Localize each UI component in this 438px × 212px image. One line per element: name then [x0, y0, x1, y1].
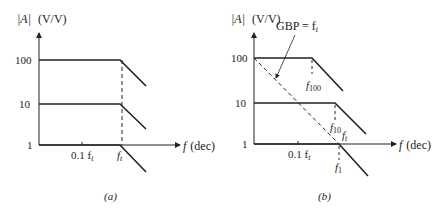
curve-gain-100-a — [39, 60, 146, 86]
x-tick-0.1ft-b: 0.1 ft — [288, 148, 311, 162]
gbp-annotation: GBP = ft — [276, 19, 319, 34]
curve-gain-10-a — [39, 104, 146, 129]
f1-label: f1 — [335, 161, 342, 175]
y-tick-100-a: 100 — [15, 54, 32, 66]
f100-label: f100 — [306, 79, 321, 93]
caption-a: (a) — [104, 190, 117, 203]
gbp-pointer-arrow — [276, 35, 295, 78]
x-tick-ft-a: ft — [117, 149, 123, 163]
x-axis-label-a: f(dec) — [183, 139, 215, 153]
curve-gain-1-b — [254, 144, 368, 176]
diagram-canvas: |A| (V/V) 100 10 1 0.1 ft ft f(dec) (a) — [0, 0, 438, 212]
panel-a: |A| (V/V) 100 10 1 0.1 ft ft f(dec) (a) — [15, 12, 215, 203]
y-tick-1-a: 1 — [27, 139, 33, 151]
caption-b: (b) — [318, 190, 331, 203]
curve-gain-10-b — [254, 103, 366, 134]
f10-label: f10 — [330, 121, 341, 135]
x-axis-label-b: f(dec) — [399, 138, 431, 152]
panel-b: |A| (V/V) 100 10 1 GBP = ft f100 f10 ft — [231, 12, 431, 203]
curve-gain-100-b — [254, 58, 343, 91]
y-tick-10-b: 10 — [235, 97, 247, 109]
y-tick-1-b: 1 — [242, 138, 248, 150]
x-tick-0.1ft-a: 0.1 ft — [71, 149, 94, 163]
gbp-dashed-line — [254, 58, 339, 144]
y-axis-label-a: |A| (V/V) — [17, 12, 67, 26]
y-axis-label-b: |A| (V/V) — [231, 12, 281, 26]
ft-label-b: ft — [342, 129, 348, 143]
y-tick-10-a: 10 — [19, 98, 31, 110]
y-tick-100-b: 100 — [231, 52, 248, 64]
